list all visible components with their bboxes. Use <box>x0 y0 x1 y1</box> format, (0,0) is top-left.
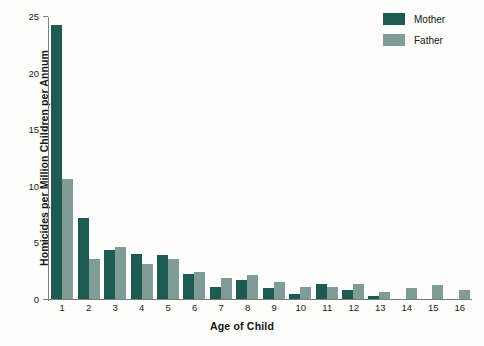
bar-mother-age-6 <box>183 274 194 299</box>
bar-group <box>287 17 313 299</box>
bar-group <box>419 17 445 299</box>
bar-group <box>340 17 366 299</box>
y-axis-tick: 0 <box>43 299 48 300</box>
bar-father-age-12 <box>353 284 364 299</box>
y-axis-tick: 25 <box>43 16 48 17</box>
x-axis-tick-label: 13 <box>367 302 394 313</box>
x-axis-tick-label: 14 <box>394 302 421 313</box>
bar-mother-age-5 <box>157 255 168 299</box>
bar-group <box>234 17 260 299</box>
x-axis-tick-label: 4 <box>129 302 156 313</box>
bar-mother-age-10 <box>289 294 300 299</box>
x-axis-tick-label: 15 <box>420 302 447 313</box>
legend-swatch-father <box>383 34 405 46</box>
x-axis-tick-label: 7 <box>208 302 235 313</box>
x-axis-tick-label: 9 <box>261 302 288 313</box>
bar-group <box>155 17 181 299</box>
bar-mother-age-7 <box>210 287 221 299</box>
bar-mother-age-1 <box>51 25 62 299</box>
x-axis-tick-label: 10 <box>288 302 315 313</box>
bar-chart: Homicides per Million Children per Annum… <box>0 0 484 346</box>
bar-group <box>181 17 207 299</box>
bar-mother-age-11 <box>316 284 327 299</box>
bar-father-age-15 <box>432 285 443 299</box>
bar-mother-age-13 <box>368 296 379 299</box>
y-axis-tick-label: 20 <box>28 67 39 78</box>
bar-father-age-5 <box>168 259 179 299</box>
bar-groups <box>49 17 472 299</box>
x-axis-tick-label: 5 <box>155 302 182 313</box>
bar-father-age-6 <box>194 272 205 299</box>
bar-father-age-2 <box>89 259 100 299</box>
bar-father-age-13 <box>379 292 390 299</box>
bar-group <box>128 17 154 299</box>
y-axis-tick-label: 0 <box>34 294 39 305</box>
x-axis-tick-label: 16 <box>447 302 474 313</box>
legend-swatch-mother <box>383 13 405 25</box>
x-axis-tick-label: 12 <box>341 302 368 313</box>
bar-father-age-4 <box>142 264 153 299</box>
x-axis-tick-label: 11 <box>314 302 341 313</box>
bar-group <box>102 17 128 299</box>
x-axis-tick-label: 8 <box>235 302 262 313</box>
y-axis-tick: 5 <box>43 242 48 243</box>
y-axis-tick-label: 5 <box>34 237 39 248</box>
bar-mother-age-9 <box>263 288 274 299</box>
bar-group <box>446 17 472 299</box>
y-axis-tick: 20 <box>43 73 48 74</box>
bar-mother-age-8 <box>236 280 247 299</box>
y-axis-tick-label: 10 <box>28 180 39 191</box>
y-axis-tick: 15 <box>43 129 48 130</box>
x-axis-title: Age of Child <box>0 320 484 332</box>
x-axis-tick-label: 6 <box>182 302 209 313</box>
legend-item-mother: Mother <box>383 13 445 25</box>
y-axis-tick-label: 25 <box>28 11 39 22</box>
bar-group <box>261 17 287 299</box>
legend-label: Father <box>414 35 443 46</box>
bar-mother-age-3 <box>104 250 115 299</box>
bar-father-age-11 <box>327 287 338 299</box>
bar-group <box>393 17 419 299</box>
chart-legend: MotherFather <box>383 13 445 55</box>
bar-group <box>366 17 392 299</box>
bar-father-age-8 <box>247 275 258 299</box>
y-axis-tick: 10 <box>43 186 48 187</box>
x-axis-tick-label: 1 <box>49 302 76 313</box>
x-axis-line <box>48 299 472 300</box>
bar-father-age-1 <box>62 179 73 299</box>
plot-area: 0510152025 <box>48 17 472 300</box>
bar-father-age-7 <box>221 278 232 300</box>
bar-mother-age-4 <box>131 254 142 299</box>
bar-father-age-10 <box>300 287 311 299</box>
x-axis-tick-label: 2 <box>76 302 103 313</box>
bar-father-age-3 <box>115 247 126 299</box>
bar-mother-age-12 <box>342 290 353 299</box>
bar-group <box>49 17 75 299</box>
bar-group <box>75 17 101 299</box>
x-axis-tick-labels: 12345678910111213141516 <box>49 302 473 313</box>
legend-item-father: Father <box>383 34 445 46</box>
bar-group <box>313 17 339 299</box>
bar-father-age-14 <box>406 288 417 299</box>
bar-mother-age-2 <box>78 218 89 300</box>
bar-father-age-9 <box>274 282 285 299</box>
x-axis-tick-label: 3 <box>102 302 129 313</box>
bar-group <box>208 17 234 299</box>
legend-label: Mother <box>414 14 445 25</box>
y-axis-tick-label: 15 <box>28 124 39 135</box>
bar-father-age-16 <box>459 290 470 299</box>
